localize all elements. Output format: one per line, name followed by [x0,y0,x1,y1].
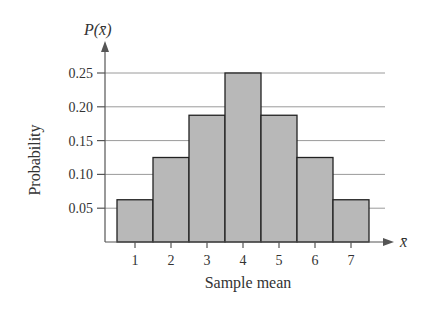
x-tick-label: 6 [312,253,319,268]
bar [261,115,297,242]
y-axis-title: Probability [26,124,44,195]
x-axis-arrow-icon [383,238,394,246]
y-tick-label: 0.15 [69,134,94,149]
x-tick-label: 2 [168,253,175,268]
y-tick-label: 0.25 [69,66,94,81]
x-tick-label: 1 [132,253,139,268]
bars [117,73,369,242]
bar [333,200,369,242]
y-tick-label: 0.05 [69,201,94,216]
y-axis-symbol: P(x̄) [83,21,112,39]
bar [117,200,153,242]
bar [153,158,189,243]
y-tick-label: 0.20 [69,100,94,115]
y-axis-arrow-icon [101,41,109,52]
bar [297,158,333,243]
y-ticks: 0.050.100.150.200.25 [69,66,106,216]
y-tick-label: 0.10 [69,167,94,182]
bar [225,73,261,242]
x-tick-label: 5 [276,253,283,268]
bar [189,115,225,242]
x-ticks: 1234567 [132,242,355,268]
x-axis-symbol: x̄ [399,233,407,250]
x-tick-label: 3 [204,253,211,268]
probability-histogram: 0.050.100.150.200.25 1234567 P(x̄) x̄ Pr… [0,0,441,318]
x-tick-label: 7 [348,253,355,268]
x-axis-title: Sample mean [205,274,292,292]
x-tick-label: 4 [240,253,247,268]
